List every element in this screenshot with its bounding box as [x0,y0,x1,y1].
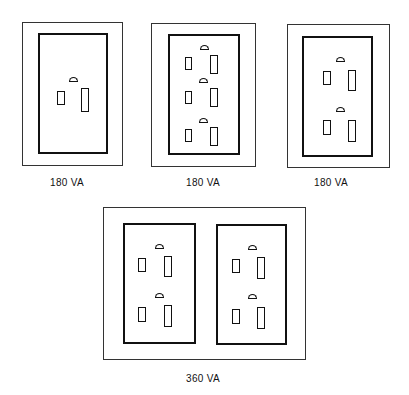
hot-slot-icon [210,127,218,146]
ground-hole-icon [199,78,208,83]
ground-hole-icon [155,293,164,298]
neutral-slot-icon [185,57,192,70]
ground-hole-icon [336,107,345,112]
ground-hole-icon [155,244,164,249]
hot-slot-icon [210,55,218,74]
triplex-receptacle-device [168,34,240,155]
ground-hole-icon [199,118,208,123]
single-receptacle-label: 180 VA [50,177,84,188]
neutral-slot-icon [232,259,240,273]
hot-slot-icon [81,88,89,112]
neutral-slot-icon [185,91,192,104]
double-duplex-label: 360 VA [186,373,220,384]
hot-slot-icon [164,256,172,277]
ground-hole-icon [69,77,78,82]
neutral-slot-icon [232,309,240,324]
neutral-slot-icon [138,307,146,322]
neutral-slot-icon [57,91,65,105]
neutral-slot-icon [185,129,192,142]
ground-hole-icon [200,45,209,50]
hot-slot-icon [164,305,172,327]
ground-hole-icon [248,245,257,250]
neutral-slot-icon [323,120,331,135]
ground-hole-icon [248,294,257,299]
neutral-slot-icon [323,71,331,85]
single-receptacle-device [38,33,108,154]
hot-slot-icon [348,120,356,142]
double-duplex-left-device [123,223,196,344]
hot-slot-icon [257,257,265,279]
double-duplex-right-device [216,224,287,345]
hot-slot-icon [257,307,265,329]
hot-slot-icon [210,88,218,107]
triplex-receptacle-label: 180 VA [186,177,220,188]
neutral-slot-icon [138,258,146,272]
duplex-receptacle-device [302,36,373,157]
duplex-receptacle-label: 180 VA [314,177,348,188]
hot-slot-icon [348,70,356,91]
ground-hole-icon [336,57,345,62]
